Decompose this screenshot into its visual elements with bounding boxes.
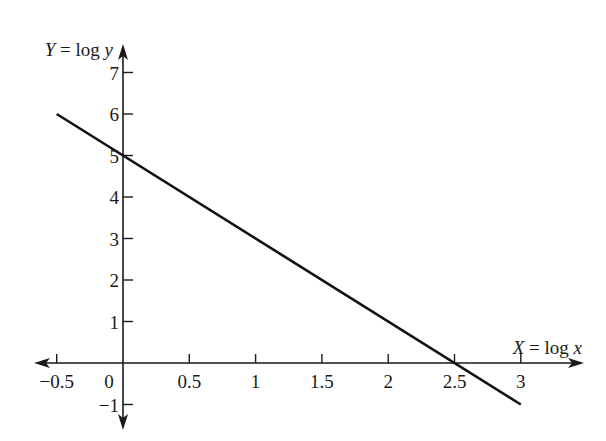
x-tick-label: 1 (251, 371, 261, 392)
y-tick-label: 4 (110, 187, 120, 208)
y-tick-label: 5 (110, 146, 120, 167)
chart: −0.50.511.522.530−11234567Y = log yX = l… (0, 0, 606, 441)
x-axis-label: X = log x (512, 337, 583, 358)
series (57, 114, 521, 405)
y-tick-label: 2 (110, 270, 120, 291)
ticks (57, 73, 521, 405)
x-tick-label: −0.5 (39, 371, 73, 392)
labels: −0.50.511.522.530−11234567Y = log yX = l… (39, 39, 582, 416)
y-tick-label: 7 (110, 63, 120, 84)
x-tick-label: 0.5 (177, 371, 201, 392)
x-tick-label: 2 (383, 371, 393, 392)
x-tick-label: 1.5 (310, 371, 334, 392)
y-tick-label: 1 (110, 312, 120, 333)
y-tick-label: −1 (99, 395, 119, 416)
y-tick-label: 3 (110, 229, 120, 250)
origin-label: 0 (104, 371, 114, 392)
x-tick-label: 3 (516, 371, 526, 392)
y-tick-label: 6 (110, 104, 120, 125)
x-tick-label: 2.5 (443, 371, 467, 392)
y-axis-label: Y = log y (45, 39, 114, 60)
data-line (57, 114, 521, 405)
